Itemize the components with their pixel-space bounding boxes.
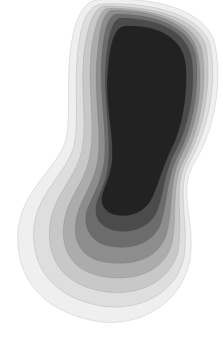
abstract-contour-artwork	[0, 0, 223, 341]
